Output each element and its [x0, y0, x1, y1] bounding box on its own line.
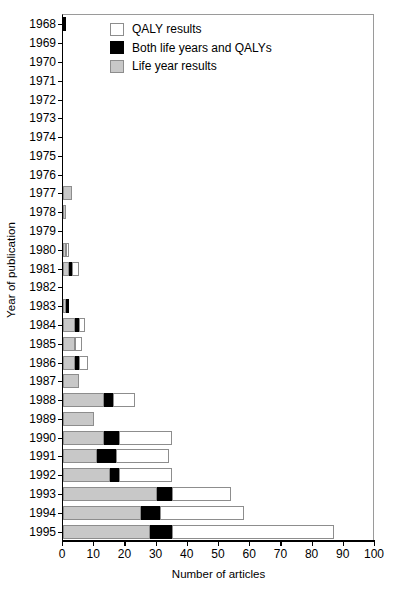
bar-segment-black[interactable] [157, 487, 173, 501]
bar-segment-gray[interactable] [63, 205, 66, 219]
bar-segment-gray[interactable] [63, 393, 104, 407]
y-axis-tick-label: 1989 [29, 413, 56, 425]
bar-segment-black[interactable] [141, 506, 160, 520]
legend-label: QALY results [132, 23, 202, 35]
y-axis-tick [58, 81, 63, 82]
bar-segment-gray[interactable] [63, 449, 97, 463]
x-axis-tick-label: 40 [180, 548, 193, 560]
bar-segment-gray[interactable] [63, 318, 75, 332]
y-axis-tick-label: 1973 [29, 112, 56, 124]
y-axis-tick-label: 1986 [29, 357, 56, 369]
bar-segment-white[interactable] [72, 262, 78, 276]
bar-segment-white[interactable] [172, 487, 231, 501]
chart-row: 1991 [63, 447, 373, 466]
bar-segment-white[interactable] [119, 468, 172, 482]
stacked-bar[interactable] [63, 506, 244, 520]
bar-segment-white[interactable] [116, 449, 169, 463]
stacked-bar[interactable] [63, 356, 88, 370]
stacked-bar[interactable] [63, 412, 94, 426]
y-axis-title: Year of publication [2, 0, 20, 540]
x-axis-tick [124, 540, 125, 546]
y-axis-tick [58, 175, 63, 176]
x-axis-tick-label: 90 [336, 548, 349, 560]
stacked-bar[interactable] [63, 337, 82, 351]
y-axis-tick-label: 1968 [29, 18, 56, 30]
chart-row: 1987 [63, 372, 373, 391]
y-axis-tick-label: 1981 [29, 263, 56, 275]
chart-row: 1976 [63, 165, 373, 184]
chart-row: 1992 [63, 466, 373, 485]
bar-segment-black[interactable] [104, 431, 120, 445]
x-axis-tick-label: 60 [243, 548, 256, 560]
stacked-bar-chart: Year of publication 19681969197019711972… [0, 0, 399, 594]
legend-swatch-black [110, 41, 124, 54]
legend-item[interactable]: Both life years and QALYs [110, 39, 272, 58]
bar-segment-white[interactable] [172, 525, 334, 539]
stacked-bar[interactable] [63, 449, 169, 463]
bar-segment-gray[interactable] [63, 356, 75, 370]
y-axis-tick-label: 1985 [29, 338, 56, 350]
x-axis-tick [187, 540, 188, 546]
bar-segment-white[interactable] [79, 356, 88, 370]
stacked-bar[interactable] [63, 186, 72, 200]
bar-segment-gray[interactable] [63, 525, 150, 539]
bar-segment-white[interactable] [113, 393, 135, 407]
stacked-bar[interactable] [63, 243, 69, 257]
stacked-bar[interactable] [63, 525, 334, 539]
stacked-bar[interactable] [63, 205, 66, 219]
chart-row: 1973 [63, 109, 373, 128]
y-axis-tick-label: 1970 [29, 56, 56, 68]
stacked-bar[interactable] [63, 374, 79, 388]
bar-segment-gray[interactable] [63, 374, 79, 388]
bar-segment-gray[interactable] [63, 468, 110, 482]
bar-segment-white[interactable] [75, 337, 81, 351]
bar-segment-gray[interactable] [63, 431, 104, 445]
x-axis-tick-label: 80 [305, 548, 318, 560]
y-axis-tick-label: 1975 [29, 150, 56, 162]
x-axis-title: Number of articles [62, 568, 375, 580]
bar-segment-black[interactable] [110, 468, 119, 482]
bar-segment-gray[interactable] [63, 186, 72, 200]
y-axis-tick-label: 1972 [29, 94, 56, 106]
y-axis-tick-label: 1980 [29, 244, 56, 256]
legend-item[interactable]: QALY results [110, 20, 272, 39]
stacked-bar[interactable] [63, 318, 85, 332]
chart-row: 1975 [63, 147, 373, 166]
stacked-bar[interactable] [63, 299, 69, 313]
bar-segment-gray[interactable] [63, 412, 94, 426]
bar-segment-gray[interactable] [63, 337, 75, 351]
bar-segment-white[interactable] [119, 431, 172, 445]
y-axis-tick-label: 1979 [29, 225, 56, 237]
x-axis-tick [218, 540, 219, 546]
stacked-bar[interactable] [63, 262, 79, 276]
y-axis-tick [58, 137, 63, 138]
y-axis-tick [58, 62, 63, 63]
legend-item[interactable]: Life year results [110, 57, 272, 76]
chart-row: 1989 [63, 410, 373, 429]
legend: QALY resultsBoth life years and QALYsLif… [110, 20, 272, 76]
bar-segment-black[interactable] [66, 299, 69, 313]
bar-segment-gray[interactable] [63, 487, 157, 501]
stacked-bar[interactable] [63, 431, 172, 445]
bar-segment-white[interactable] [66, 243, 69, 257]
y-axis-tick [58, 100, 63, 101]
bar-segment-black[interactable] [104, 393, 113, 407]
stacked-bar[interactable] [63, 487, 231, 501]
y-axis-tick [58, 287, 63, 288]
y-axis-tick-label: 1976 [29, 169, 56, 181]
stacked-bar[interactable] [63, 393, 135, 407]
bar-segment-gray[interactable] [63, 506, 141, 520]
bar-segment-white[interactable] [160, 506, 244, 520]
stacked-bar[interactable] [63, 17, 66, 31]
stacked-bar[interactable] [63, 468, 172, 482]
y-axis-tick-label: 1974 [29, 131, 56, 143]
chart-row: 1977 [63, 184, 373, 203]
bar-segment-white[interactable] [79, 318, 85, 332]
bar-segment-black[interactable] [150, 525, 172, 539]
bar-segment-black[interactable] [63, 17, 66, 31]
y-axis-tick-label: 1983 [29, 300, 56, 312]
bar-segment-black[interactable] [97, 449, 116, 463]
x-axis-tick-label: 70 [274, 548, 287, 560]
x-axis-tick [249, 540, 250, 546]
y-axis-tick-label: 1993 [29, 488, 56, 500]
